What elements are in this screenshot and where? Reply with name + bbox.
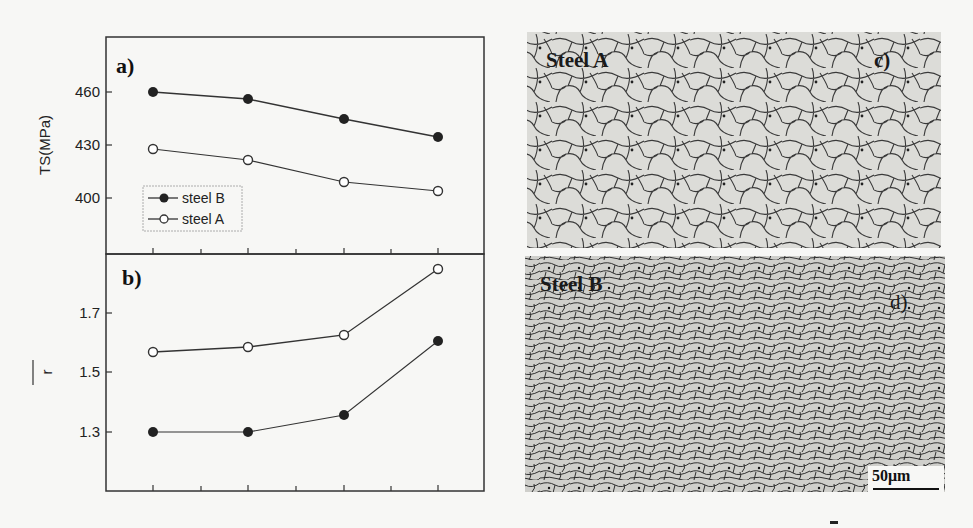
legend-filled-circle-icon [160,194,169,203]
legend-label-steel-b: steel B [182,190,225,206]
markers-steel-a-r [149,265,443,357]
series-line-steel-b-r [153,341,438,432]
ytick-label: 1.5 [79,363,100,380]
panel-label-b: b) [122,265,142,290]
ytick-label: 430 [75,136,100,153]
line-chart-figure: 460 430 400 1.7 1.5 1.3 TS(MPa) r a) b) … [0,0,973,528]
micrograph-title-steel-a: Steel A [546,48,608,73]
scale-bar-label: 50μm [872,467,910,485]
stray-mark [830,521,838,524]
markers-steel-b-r [148,336,443,437]
legend: steel B steel A [143,186,242,231]
series-line-steel-a-r [153,269,438,352]
legend-label-steel-a: steel A [182,211,225,227]
ytick-label: 460 [75,83,100,100]
panel-label-a: a) [116,53,134,78]
panel-label-d: d) [890,290,908,315]
legend-open-circle-icon [160,215,168,223]
panel-b-frame [106,254,484,491]
markers-steel-a-ts [149,145,443,196]
ytick-label: 1.3 [79,423,100,440]
series-line-steel-b-ts [153,92,438,137]
micrograph-title-steel-b: Steel B [540,272,602,297]
svg-text:r: r [38,370,55,375]
y-axis-title-ts: TS(MPa) [36,115,53,175]
scale-bar-line [873,488,939,490]
panel-label-c: c) [874,48,890,73]
ytick-label: 400 [75,189,100,206]
series-line-steel-a-ts [153,149,438,191]
ytick-label: 1.7 [79,304,100,321]
y-axis-title-r-bar: r [33,360,55,385]
